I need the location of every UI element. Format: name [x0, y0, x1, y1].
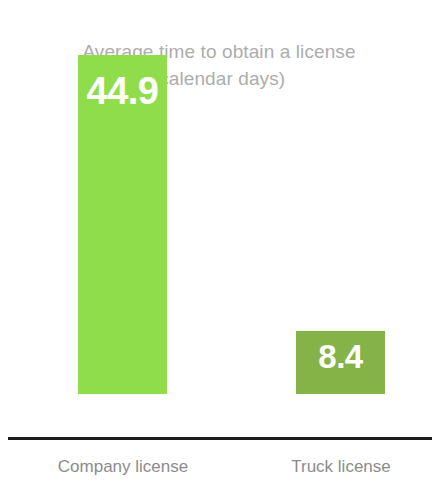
- bar-value-label-company-license: 44.9: [87, 72, 159, 110]
- plot-area: 44.9 8.4: [0, 0, 438, 440]
- bar-value-label-truck-license: 8.4: [318, 340, 362, 373]
- x-axis-category-labels: Company license Truck license: [0, 455, 438, 485]
- bar-truck-license: 8.4: [296, 331, 385, 394]
- x-axis-line: [8, 437, 432, 440]
- x-axis-label-company-license: Company license: [32, 455, 214, 479]
- bar-company-license: 44.9: [78, 55, 167, 394]
- x-axis-label-truck-license: Truck license: [256, 455, 426, 479]
- bar-chart: Average time to obtain a license (calend…: [0, 0, 438, 485]
